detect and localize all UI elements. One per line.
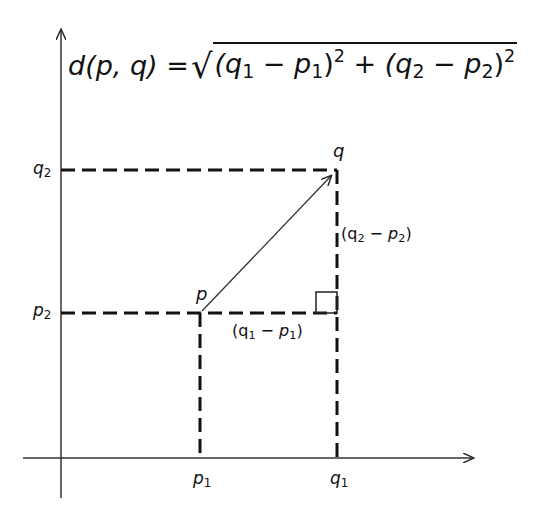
- vdiff-open: (q: [341, 224, 357, 243]
- y-label-p2-sub: 2: [44, 308, 52, 322]
- term2-minus: − p: [424, 48, 481, 79]
- vdiff-close: ): [405, 224, 411, 243]
- vector-p-to-q: [202, 176, 331, 311]
- sqrt-icon: √: [191, 46, 213, 86]
- vdiff-q-sub: 2: [357, 232, 364, 245]
- x-label-q1: q1: [330, 470, 348, 490]
- term1-close: ): [323, 48, 334, 79]
- formula-radicand: (q1 − p1)2 + (q2 − p2)2: [213, 42, 518, 81]
- term2-close: ): [493, 48, 504, 79]
- formula-lhs: d(p, q): [68, 50, 158, 81]
- vdiff-minus: − p: [365, 224, 399, 243]
- hdiff-minus: − p: [256, 321, 290, 340]
- hdiff-q-sub: 1: [248, 329, 255, 342]
- term1-open: (q: [215, 48, 243, 79]
- y-label-q2-sub: 2: [44, 166, 52, 180]
- y-label-p2: p2: [33, 302, 51, 322]
- y-label-p2-base: p: [33, 300, 44, 320]
- term1-minus: − p: [254, 48, 311, 79]
- term1-p-sub: 1: [311, 60, 323, 82]
- right-angle-marker: [316, 292, 337, 313]
- formula-equals: =: [166, 50, 189, 81]
- y-label-q2-base: q: [33, 158, 44, 178]
- euclidean-distance-diagram: d(p, q) =√(q1 − p1)2 + (q2 − p2)2 q2 p2 …: [0, 0, 550, 520]
- horizontal-difference-label: (q1 − p1): [232, 323, 303, 341]
- x-label-p1-base: p: [193, 468, 204, 488]
- x-label-p1: p1: [193, 470, 211, 490]
- x-label-q1-sub: 1: [341, 476, 349, 490]
- term1-exp: 2: [334, 46, 345, 66]
- term2-q-sub: 2: [412, 60, 424, 82]
- formula-plus: +: [345, 48, 385, 79]
- x-label-q1-base: q: [330, 468, 341, 488]
- y-label-q2: q2: [33, 160, 51, 180]
- point-q-label: q: [333, 142, 344, 160]
- term2-p-sub: 2: [481, 60, 493, 82]
- term1-q-sub: 1: [242, 60, 254, 82]
- vertical-difference-label: (q2 − p2): [341, 226, 412, 244]
- x-label-p1-sub: 1: [204, 476, 212, 490]
- hdiff-close: ): [296, 321, 302, 340]
- distance-formula: d(p, q) =√(q1 − p1)2 + (q2 − p2)2: [68, 44, 517, 83]
- hdiff-open: (q: [232, 321, 248, 340]
- term2-exp: 2: [504, 46, 515, 66]
- point-p-label: p: [196, 285, 207, 303]
- term2-open: (q: [385, 48, 413, 79]
